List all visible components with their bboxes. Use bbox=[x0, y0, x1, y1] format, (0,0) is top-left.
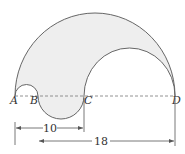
diagram: A B C D 10 18 bbox=[0, 0, 185, 154]
dimension-ac: 10 bbox=[16, 122, 83, 135]
dimension-bd: 18 bbox=[39, 135, 174, 148]
label-d: D bbox=[171, 94, 181, 107]
label-b: B bbox=[29, 94, 38, 107]
label-a: A bbox=[9, 94, 18, 107]
dim-bd-value: 18 bbox=[94, 135, 108, 148]
label-c: C bbox=[84, 94, 93, 107]
dim-ac-value: 10 bbox=[43, 122, 57, 135]
